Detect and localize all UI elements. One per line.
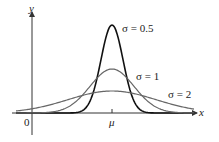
normal-distribution-chart: y x 0 μ σ = 0.5 σ = 1 σ = 2: [0, 0, 219, 142]
mu-label: μ: [109, 117, 115, 128]
sigma-2-label: σ = 2: [168, 89, 191, 100]
y-axis-label: y: [29, 3, 34, 14]
origin-label: 0: [24, 117, 30, 128]
sigma-05-label: σ = 0.5: [122, 23, 153, 34]
sigma-1-label: σ = 1: [136, 71, 159, 82]
x-axis-label: x: [199, 107, 204, 118]
